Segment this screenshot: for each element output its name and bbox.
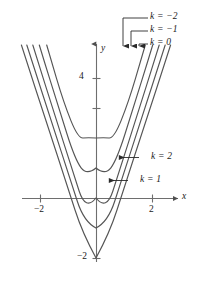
leader-k-neg2 — [123, 18, 148, 46]
right-annotation-leaders — [109, 158, 139, 181]
leader-k-zero — [139, 44, 148, 46]
parabola-family-figure: k = −2 k = −1 k = 0 k = 2 k = 1 x y −2 2… — [0, 0, 203, 286]
x-axis-label: x — [182, 192, 186, 202]
x-tick-label-pos2: 2 — [149, 205, 154, 215]
y-tick-label-neg2: −2 — [77, 252, 87, 262]
annotation-label-k-neg2: k = −2 — [150, 12, 178, 22]
annotation-label-k-zero: k = 0 — [150, 38, 171, 48]
top-annotation-leaders — [123, 18, 148, 46]
x-tick-label-neg2: −2 — [34, 205, 44, 215]
annotation-label-k-neg1: k = −1 — [150, 25, 178, 35]
y-axis-label: y — [101, 44, 105, 54]
annotation-label-k-two: k = 2 — [151, 152, 172, 162]
y-tick-label-4: 4 — [79, 72, 84, 82]
annotation-label-k-one: k = 1 — [140, 175, 161, 185]
